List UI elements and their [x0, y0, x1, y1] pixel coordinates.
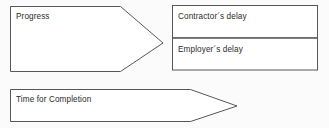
time-for-completion-label: Time for Completion — [16, 95, 91, 105]
employers-delay-label: Employer´s delay — [178, 45, 243, 55]
progress-arrow-label: Progress — [16, 12, 50, 22]
contractors-delay-label: Contractor´s delay — [178, 12, 247, 22]
diagram-canvas: Progress Contractor´s delay Employer´s d… — [0, 0, 329, 128]
